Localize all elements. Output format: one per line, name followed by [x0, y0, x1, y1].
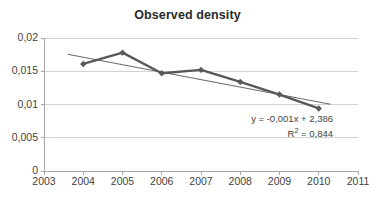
regression-equation-text: y = -0,001x + 2,386 [251, 113, 333, 125]
trendline [68, 54, 331, 104]
data-series-line [83, 53, 319, 109]
y-axis-tick-label: 0,01 [18, 99, 38, 110]
y-axis-tick-label: 0,015 [12, 65, 38, 76]
r-squared-text: R2 = 0,844 [251, 125, 333, 140]
trendline-equation-annotation: y = -0,001x + 2,386 R2 = 0,844 [251, 113, 333, 140]
x-axis-tick-label: 2005 [103, 176, 143, 187]
x-axis-tick-label: 2003 [24, 176, 64, 187]
x-axis-tick-label: 2007 [181, 176, 221, 187]
x-axis-tick-label: 2009 [260, 176, 300, 187]
y-axis-tick-label: 0,02 [18, 32, 38, 43]
r-squared-value: = 0,844 [298, 128, 333, 139]
data-point-markers [80, 49, 322, 111]
x-axis-tick-label: 2006 [142, 176, 182, 187]
x-axis-tick-label: 2004 [63, 176, 103, 187]
y-axis-tick-label: 0,005 [12, 132, 38, 143]
chart-container: Observed density 00,0050,010,0150,02 200… [0, 0, 375, 201]
x-axis-tick-label: 2011 [338, 176, 375, 187]
x-axis-tick-label: 2010 [299, 176, 339, 187]
chart-plot-area [0, 0, 375, 201]
x-axis-tick-label: 2008 [220, 176, 260, 187]
